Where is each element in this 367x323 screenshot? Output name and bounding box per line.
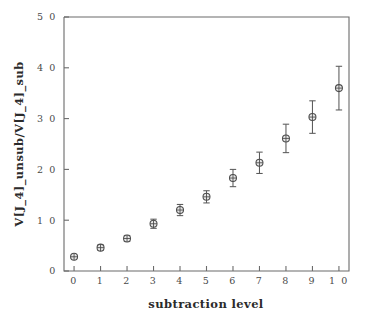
x-tick-label: 2 — [123, 275, 131, 286]
x-axis-ticks: 01234567891 0 — [70, 266, 349, 286]
x-axis-title: subtraction level — [148, 297, 264, 311]
x-tick-label: 0 — [70, 275, 78, 286]
axis-frame — [64, 17, 349, 271]
y-axis-title: V[J_4]_unsub/V[J_4]_sub — [12, 61, 27, 227]
x-tick-label: 1 — [97, 275, 105, 286]
x-tick-label: 3 — [150, 275, 158, 286]
data-point — [256, 152, 263, 173]
data-point — [335, 66, 342, 110]
y-tick-label: 2 0 — [37, 164, 57, 175]
data-point — [71, 253, 78, 260]
x-tick-label: 7 — [256, 275, 264, 286]
y-tick-label: 1 0 — [37, 215, 57, 226]
x-tick-label: 9 — [309, 275, 317, 286]
x-tick-label: 6 — [229, 275, 237, 286]
y-tick-label: 4 0 — [37, 62, 57, 73]
data-point — [309, 101, 316, 134]
chart-figure: 01 02 03 04 05 0 01234567891 0 V[J_4]_un… — [0, 0, 367, 323]
x-tick-label: 5 — [203, 275, 211, 286]
y-tick-label: 3 0 — [37, 113, 57, 124]
x-tick-label: 8 — [282, 275, 290, 286]
y-tick-label: 5 0 — [37, 11, 57, 22]
data-point — [203, 191, 210, 203]
data-point — [124, 235, 131, 242]
axes — [64, 17, 349, 271]
data-point — [282, 124, 289, 152]
scatter-plot-svg: 01 02 03 04 05 0 01234567891 0 V[J_4]_un… — [0, 0, 367, 323]
x-tick-label: 1 0 — [329, 275, 349, 286]
data-point — [177, 204, 184, 215]
data-point — [97, 244, 104, 251]
data-point — [150, 219, 157, 228]
data-series-errorbars — [71, 66, 343, 260]
data-point — [229, 169, 236, 186]
x-tick-label: 4 — [176, 275, 184, 286]
y-tick-label: 0 — [49, 265, 57, 276]
